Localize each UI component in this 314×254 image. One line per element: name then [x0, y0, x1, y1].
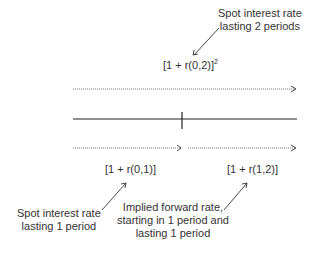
top-note-line2: lasting 2 periods	[218, 20, 302, 33]
left-note: Spot interest rate lasting 1 period	[17, 207, 101, 233]
right-note-line2: starting in 1 period and	[117, 214, 229, 227]
top-note-pointer-head	[193, 50, 198, 55]
left-note-line1: Spot interest rate	[17, 207, 101, 220]
right-formula: [1 + r(1,2)]	[227, 163, 278, 175]
top-note-pointer	[194, 28, 219, 55]
left-formula: [1 + r(0,1)]	[105, 163, 156, 175]
left-note-line2: lasting 1 period	[17, 220, 101, 233]
top-note: Spot interest rate lasting 2 periods	[218, 7, 302, 33]
top-formula-exponent: 2	[214, 58, 218, 65]
top-note-line1: Spot interest rate	[218, 7, 302, 20]
right-note-line3: lasting 1 period	[117, 227, 229, 240]
right-note: Implied forward rate, starting in 1 peri…	[117, 201, 229, 240]
top-formula: [1 + r(0,2)]2	[163, 58, 218, 71]
second-period-arrowhead	[291, 145, 296, 151]
right-note-line1: Implied forward rate,	[117, 201, 229, 214]
top-formula-text: [1 + r(0,2)]	[163, 59, 214, 71]
